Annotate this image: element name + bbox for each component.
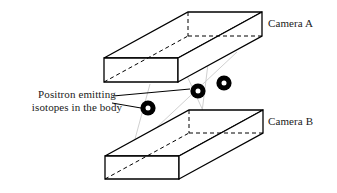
camera-b-front-face <box>105 156 179 179</box>
camera-b-box[interactable] <box>105 110 263 179</box>
camera-a-label: Camera A <box>268 17 313 29</box>
isotope-marker-2[interactable] <box>216 75 231 90</box>
camera-b-label: Camera B <box>268 115 313 127</box>
isotope-dot-center <box>196 89 201 94</box>
isotope-marker-3[interactable] <box>140 100 155 115</box>
isotope-label-line-1: Positron emitting <box>18 88 136 101</box>
figure-canvas: Camera A Camera B Positron emitting isot… <box>0 0 337 193</box>
isotope-label-line-2: isotopes in the body <box>18 101 136 114</box>
isotope-marker-1[interactable] <box>190 83 205 98</box>
isotope-dot-center <box>146 106 151 111</box>
camera-a-box[interactable] <box>104 12 262 82</box>
isotope-dot-center <box>222 81 227 86</box>
isotope-label: Positron emitting isotopes in the body <box>18 88 136 114</box>
